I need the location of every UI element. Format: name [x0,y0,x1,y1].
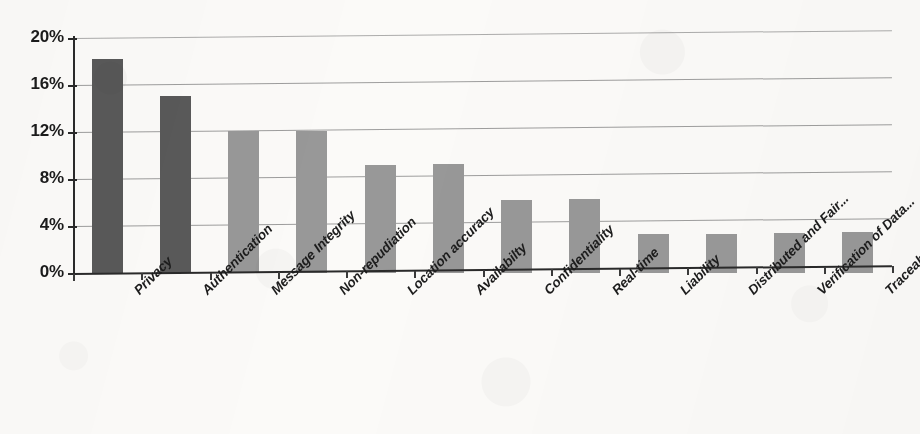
y-axis-tick-label: 12% [14,121,64,141]
y-axis-tick-label: 20% [14,27,64,47]
x-axis-category-label: Real-time [609,287,620,298]
x-axis-tick-mark [892,266,894,273]
x-axis-category-label: Confidentiality [541,287,552,298]
x-axis-tick-mark [824,267,826,274]
gridline [73,124,892,133]
bar [160,96,191,273]
bar [92,59,123,273]
y-axis-tick-label: 16% [14,74,64,94]
gridline [73,77,892,86]
gridline [73,30,892,39]
x-axis-category-label: Distributed and Fair... [745,287,756,298]
gridline [73,171,892,180]
x-axis-category-label: Liability [677,287,688,298]
bar-chart: 0%4%8%12%16%20% PrivacyAuthenticationMes… [0,0,920,434]
x-axis-tick-mark [73,274,75,281]
x-axis-category-label: Message Integrity [268,287,279,298]
x-axis-category-label: Privacy [131,287,142,298]
y-axis-tick-label: 0% [14,262,64,282]
x-axis-category-label: Location accuracy [404,287,415,298]
x-axis-category-label: Availabilty [472,287,483,298]
y-axis-tick-label: 8% [14,168,64,188]
y-axis-tick-label: 4% [14,215,64,235]
x-axis-category-label: Authentication [199,287,210,298]
y-axis-line [73,36,75,274]
x-axis-category-label: Traceability and... [882,287,893,298]
x-axis-category-label: Verification of Data... [814,287,825,298]
x-axis-category-label: Non-repudiation [336,287,347,298]
